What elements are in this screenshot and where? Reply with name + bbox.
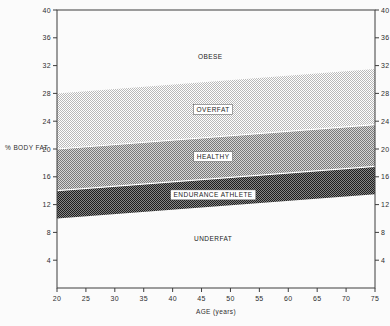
y-tick-label-right: 28 [381, 90, 389, 97]
y-tick-label-right: 16 [381, 173, 389, 180]
x-tick-label: 20 [53, 295, 61, 302]
y-tick-label-right: 24 [381, 118, 389, 125]
x-tick-label: 45 [197, 295, 205, 302]
x-tick-label: 55 [255, 295, 263, 302]
chart-plot-area: 4488121216162020242428283232363640402025… [43, 7, 390, 303]
y-tick-label-left: 40 [43, 7, 51, 14]
x-tick-label: 75 [371, 295, 379, 302]
y-tick-label-right: 36 [381, 34, 389, 41]
x-tick-label: 35 [140, 295, 148, 302]
x-tick-label: 25 [82, 295, 90, 302]
y-tick-label-right: 20 [381, 146, 389, 153]
band-label-overfat: OVERFAT [197, 106, 230, 113]
y-tick-label-left: 8 [47, 229, 51, 236]
x-tick-label: 70 [342, 295, 350, 302]
body-fat-chart-figure: 4488121216162020242428283232363640402025… [0, 0, 390, 326]
y-tick-label-right: 12 [381, 201, 389, 208]
y-tick-label-left: 12 [43, 201, 51, 208]
band-label-obese: OBESE [198, 53, 223, 60]
body-fat-bands-chart: 4488121216162020242428283232363640402025… [0, 0, 390, 326]
y-tick-label-left: 4 [47, 257, 51, 264]
y-tick-label-right: 4 [381, 257, 385, 264]
x-tick-label: 65 [313, 295, 321, 302]
y-tick-label-left: 28 [43, 90, 51, 97]
y-tick-label-right: 8 [381, 229, 385, 236]
x-tick-label: 40 [168, 295, 176, 302]
y-axis-title: % BODY FAT [5, 144, 48, 151]
y-tick-label-left: 36 [43, 34, 51, 41]
x-tick-label: 50 [226, 295, 234, 302]
band-label-endurance-athlete: ENDURANCE ATHLETE [174, 191, 253, 198]
x-axis-title: AGE (years) [196, 308, 236, 316]
y-tick-label-left: 24 [43, 118, 51, 125]
y-tick-label-left: 16 [43, 173, 51, 180]
y-tick-label-left: 32 [43, 62, 51, 69]
band-label-underfat: UNDERFAT [194, 235, 232, 242]
band-label-healthy: HEALTHY [197, 153, 230, 160]
y-tick-label-right: 40 [381, 7, 389, 14]
x-tick-label: 30 [111, 295, 119, 302]
x-tick-label: 60 [284, 295, 292, 302]
y-tick-label-right: 32 [381, 62, 389, 69]
